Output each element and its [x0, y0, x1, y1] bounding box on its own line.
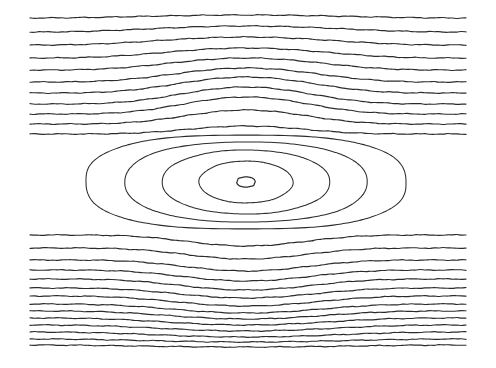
- contour-plot-figure: [0, 0, 496, 368]
- contour-plot-canvas: [0, 0, 496, 368]
